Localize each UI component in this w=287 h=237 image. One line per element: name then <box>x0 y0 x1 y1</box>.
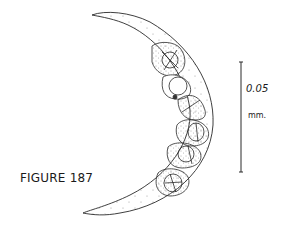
scale-unit: mm. <box>248 111 266 120</box>
scale-bar <box>239 62 243 172</box>
scale-value: 0.05 <box>246 83 268 94</box>
specimen-drawing <box>0 0 287 237</box>
figure-label: FIGURE 187 <box>20 171 93 185</box>
internal-cells <box>152 42 209 196</box>
